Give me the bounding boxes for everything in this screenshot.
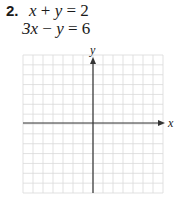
x-axis-arrow-icon bbox=[158, 120, 165, 126]
y-axis-arrow-icon bbox=[90, 57, 96, 64]
axes bbox=[23, 57, 165, 193]
x-axis-label: x bbox=[167, 116, 174, 130]
y-axis-label: y bbox=[89, 43, 96, 57]
coordinate-grid[interactable]: x y bbox=[0, 0, 180, 199]
